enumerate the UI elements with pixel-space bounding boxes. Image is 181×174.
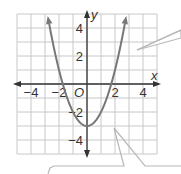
curve-left-arrow-icon xyxy=(46,16,52,24)
y-tick-label: −4 xyxy=(68,133,83,148)
parabola-graph: −4−22442−2−4 x y O xyxy=(0,0,181,174)
origin-label: O xyxy=(74,85,84,100)
curve-right-arrow-icon xyxy=(122,16,128,24)
x-tick-label: 4 xyxy=(139,85,146,100)
y-tick-label: 2 xyxy=(76,49,83,64)
x-tick-label: 2 xyxy=(111,85,118,100)
x-tick-label: −4 xyxy=(24,85,39,100)
y-tick-label: 4 xyxy=(76,21,83,36)
x-axis-label: x xyxy=(150,68,158,83)
axes xyxy=(13,10,161,158)
